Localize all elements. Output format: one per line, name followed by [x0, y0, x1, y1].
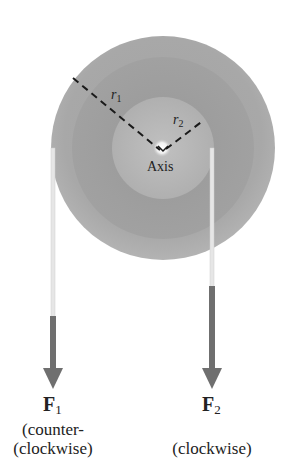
- f2-desc-line1: [162, 420, 262, 439]
- f2-symbol: F: [202, 393, 214, 415]
- f1-desc-line2: (clockwise): [2, 439, 104, 458]
- f1-subscript: 1: [55, 402, 62, 417]
- f1-symbol: F: [43, 393, 55, 415]
- force-f2-description: (clockwise): [162, 420, 262, 458]
- force-arrow-f2: [202, 286, 222, 389]
- r1-subscript: 1: [116, 93, 121, 104]
- rope-left: [51, 148, 55, 318]
- force-arrow-f1: [43, 316, 63, 389]
- radius-r2-label: r2: [173, 112, 183, 129]
- r2-subscript: 2: [178, 118, 183, 129]
- radius-r1-label: r1: [111, 87, 121, 104]
- force-f1-label: F1: [43, 393, 62, 418]
- rope-right: [210, 148, 214, 288]
- f2-desc-line2: (clockwise): [162, 439, 262, 458]
- force-f2-label: F2: [202, 393, 221, 418]
- force-f1-description: (counter- (clockwise): [2, 420, 104, 458]
- f1-desc-line1: (counter-: [2, 420, 104, 439]
- axis-label: Axis: [147, 159, 173, 175]
- f2-subscript: 2: [214, 402, 221, 417]
